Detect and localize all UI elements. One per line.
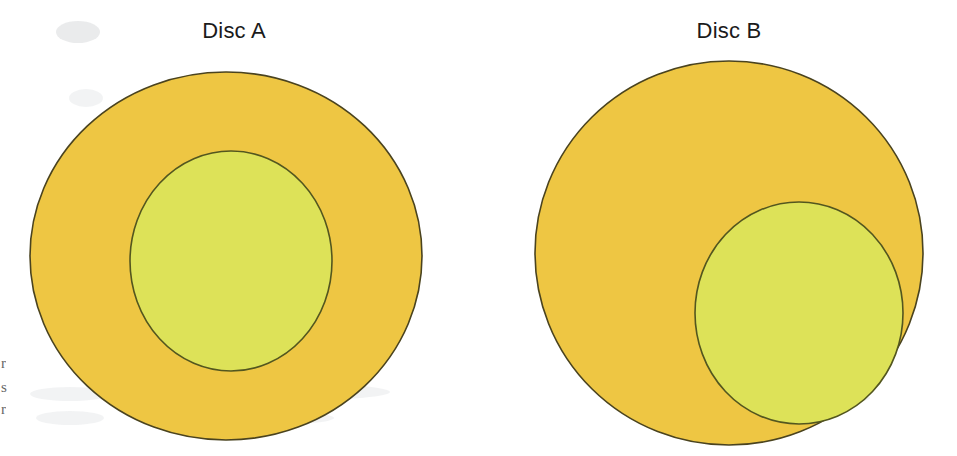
margin-caption-fragment-line2: s: [1, 379, 7, 395]
figure-container: Disc A Disc B r s r: [0, 0, 957, 456]
margin-caption-fragment-line1: r: [1, 355, 6, 371]
disc-b-label: Disc B: [697, 18, 762, 43]
disc-a-inner-region: [130, 151, 332, 371]
margin-caption-fragment-line3: r: [1, 401, 6, 417]
disc-diagram: Disc A Disc B r s r: [0, 0, 957, 456]
disc-a-label: Disc A: [202, 18, 266, 43]
disc-b-inner-region: [695, 202, 903, 424]
